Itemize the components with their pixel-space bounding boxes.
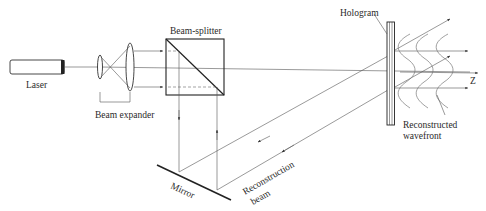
beam-expander (98, 43, 135, 102)
hologram-label: Hologram (340, 8, 379, 18)
wavefront-label-2: wavefront (403, 131, 442, 141)
reconstruction-beam-upper (179, 56, 388, 172)
large-lens (126, 43, 134, 91)
hologram-reconstruction-diagram: Laser Z Beam expander Beam-splitter Mirr… (0, 0, 486, 211)
hologram (387, 22, 395, 125)
beam-expander-label: Beam expander (95, 110, 155, 120)
diffracted-ray-upper (395, 19, 450, 50)
wavefront-label-1: Reconstructed (403, 120, 458, 130)
mirror-label: Mirror (169, 181, 197, 201)
laser-label: Laser (26, 80, 48, 90)
small-lens (98, 55, 103, 79)
beam-splitter (166, 39, 224, 95)
beam-expander-bracket (100, 92, 130, 102)
laser (10, 60, 65, 74)
z-axis-label: Z (470, 76, 476, 86)
beam-splitter-label: Beam-splitter (170, 26, 223, 36)
reconstruction-beam-lower (217, 90, 388, 190)
